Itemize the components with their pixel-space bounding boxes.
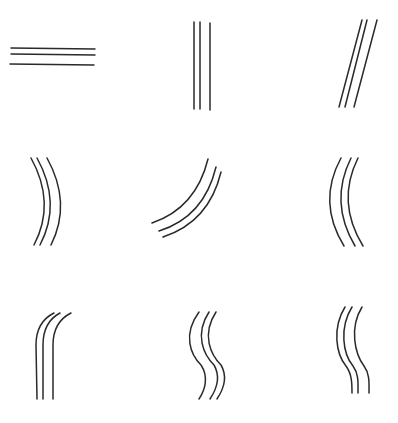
stroke-line xyxy=(47,158,61,245)
panel-diagonal-lines xyxy=(339,20,377,107)
panel-left-bulging-arcs xyxy=(330,158,363,246)
stroke-line xyxy=(10,64,94,65)
stroke-line xyxy=(345,20,367,107)
panel-horizontal-lines xyxy=(10,48,95,65)
stroke-line xyxy=(354,20,377,107)
stroke-line xyxy=(31,158,44,245)
stroke-line xyxy=(348,158,363,246)
stroke-line xyxy=(36,313,54,399)
stroke-line xyxy=(163,172,221,237)
panel-reverse-s-curves xyxy=(337,307,369,393)
stroke-line xyxy=(337,307,352,393)
stroke-line xyxy=(11,54,95,55)
panel-s-curves xyxy=(189,312,224,399)
panel-right-bulging-arcs xyxy=(31,158,61,245)
panels-group xyxy=(10,20,377,399)
stroke-line xyxy=(354,307,369,393)
stroke-line xyxy=(339,20,362,107)
panel-sweeping-curves xyxy=(152,159,221,237)
panel-vertical-lines xyxy=(194,22,210,110)
stroke-line xyxy=(53,313,71,399)
stroke-line xyxy=(11,48,95,49)
panel-hook-lines xyxy=(36,313,71,399)
stroke-line xyxy=(330,158,344,246)
line-sketch-grid xyxy=(0,0,398,423)
